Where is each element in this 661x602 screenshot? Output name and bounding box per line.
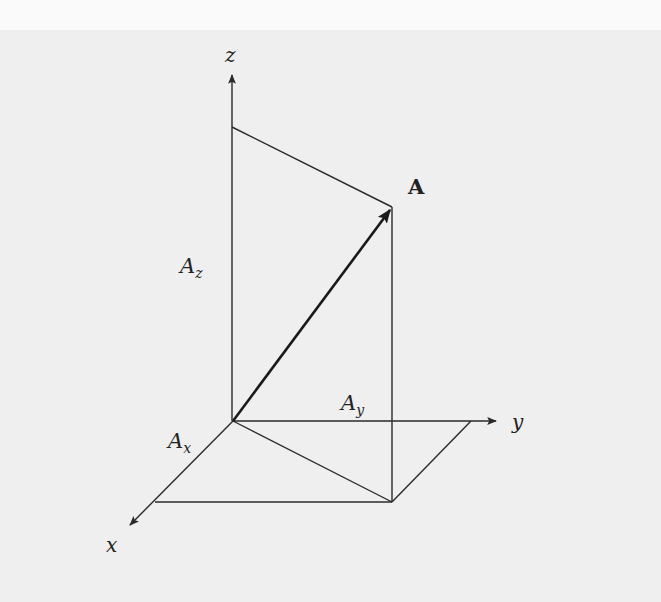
xy-diagonal-line	[233, 421, 392, 502]
vector-a-label: A	[407, 174, 425, 199]
az-label: Az	[178, 254, 203, 281]
x-axis-label: x	[106, 533, 117, 557]
y-axis-label: y	[511, 410, 524, 434]
ay-label: Ay	[339, 391, 365, 418]
vector-a-arrow	[233, 210, 390, 421]
vector-components-diagram: z y x A Az Ay Ax	[0, 0, 661, 602]
ax-label: Ax	[166, 429, 191, 456]
z-axis-label: z	[224, 43, 236, 67]
z-projection-line	[232, 127, 392, 207]
y-parallel-line	[392, 421, 471, 502]
